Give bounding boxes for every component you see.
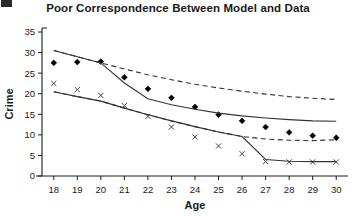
x-tick-label: 18 (48, 184, 59, 195)
x-tick-label: 26 (237, 184, 248, 195)
data-point-diamond (51, 60, 57, 66)
y-tick-label: 20 (24, 88, 35, 99)
x-tick-label: 21 (119, 184, 130, 195)
data-point-diamond (145, 86, 151, 92)
data-point-x (239, 151, 244, 156)
data-point-diamond (121, 74, 127, 80)
x-tick-label: 29 (307, 184, 318, 195)
y-tick-label: 35 (24, 26, 35, 37)
y-tick-label: 30 (24, 47, 35, 58)
data-point-x (192, 134, 197, 139)
data-point-x (169, 124, 174, 129)
x-tick-label: 30 (331, 184, 342, 195)
x-tick-label: 24 (190, 184, 201, 195)
axis-labels-group: 0510152025303518192021222324252627282930… (3, 26, 342, 211)
y-tick-label: 5 (30, 150, 35, 161)
data-series-group (51, 51, 339, 165)
data-point-diamond (169, 95, 175, 101)
data-point-diamond (286, 129, 292, 135)
y-axis-title: Crime (3, 88, 15, 119)
axes-group (36, 28, 348, 180)
data-point-x (75, 87, 80, 92)
series-line-4 (54, 51, 336, 100)
data-point-x (51, 81, 56, 86)
data-point-x (216, 143, 221, 148)
x-tick-label: 22 (143, 184, 154, 195)
x-axis-title: Age (185, 199, 206, 211)
data-point-x (98, 93, 103, 98)
x-tick-label: 23 (166, 184, 177, 195)
y-tick-label: 10 (24, 129, 35, 140)
y-tick-label: 0 (30, 170, 35, 181)
data-point-diamond (263, 124, 269, 130)
x-tick-label: 25 (213, 184, 224, 195)
x-tick-label: 20 (96, 184, 107, 195)
x-tick-label: 19 (72, 184, 83, 195)
data-point-diamond (333, 135, 339, 141)
series-line-5 (54, 92, 336, 141)
crime-vs-age-chart: 0510152025303518192021222324252627282930… (0, 0, 356, 216)
data-point-diamond (310, 133, 316, 139)
data-point-diamond (239, 118, 245, 124)
x-tick-label: 28 (284, 184, 295, 195)
figure-container: Poor Correspondence Between Model and Da… (0, 0, 356, 216)
y-tick-label: 15 (24, 109, 35, 120)
data-point-x (287, 159, 292, 164)
x-tick-label: 27 (260, 184, 271, 195)
y-tick-label: 25 (24, 68, 35, 79)
data-point-diamond (74, 59, 80, 65)
